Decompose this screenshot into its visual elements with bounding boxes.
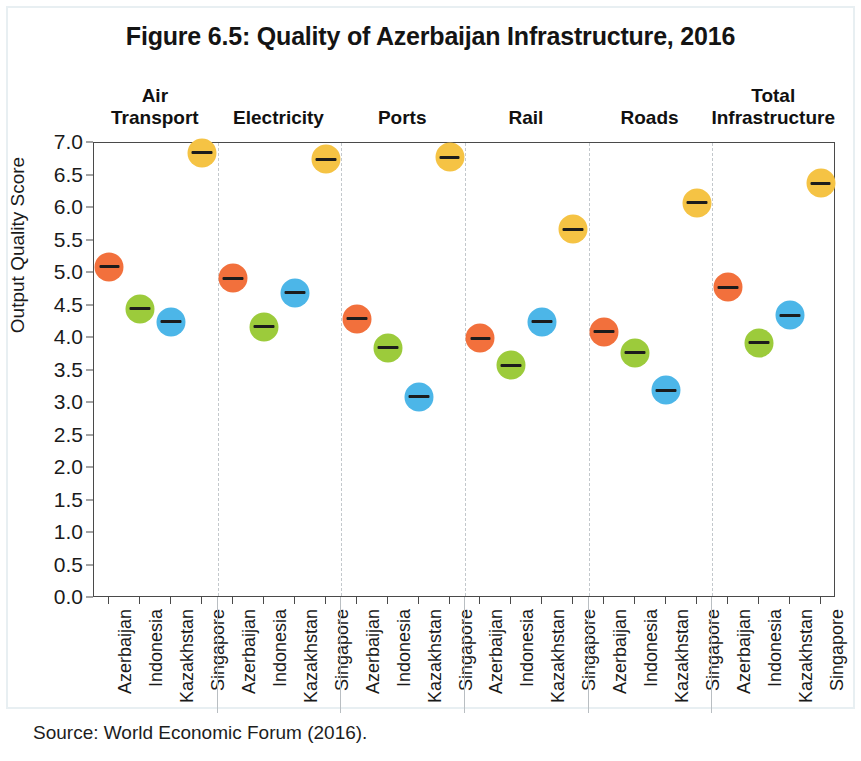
x-axis-tick-label: Indonesia	[641, 607, 662, 717]
y-axis-tick-mark	[86, 434, 93, 435]
x-axis-tick-mark	[387, 597, 388, 604]
data-point-value-line	[501, 364, 522, 367]
data-point-value-line	[130, 307, 151, 310]
y-axis-tick-label: 6.5	[54, 163, 83, 187]
x-axis-tick-label: Singapore	[827, 607, 848, 717]
data-point-marker	[95, 252, 124, 281]
x-axis-tick-label: Kazakhstan	[425, 607, 446, 717]
x-axis-tick-mark	[603, 597, 604, 604]
x-axis-tick-label: Azerbaijan	[239, 607, 260, 717]
x-axis-tick-mark	[139, 597, 140, 604]
y-axis-tick-mark	[86, 564, 93, 565]
data-point-marker	[744, 328, 773, 357]
data-point-value-line	[192, 151, 213, 154]
x-axis-tick-label: Azerbaijan	[363, 607, 384, 717]
data-point-marker	[435, 143, 464, 172]
y-axis-tick-label: 0.0	[54, 585, 83, 609]
y-axis-tick-label: 0.5	[54, 553, 83, 577]
group-header: Ports	[340, 74, 464, 130]
data-point-value-line	[99, 265, 120, 268]
data-point-value-line	[717, 286, 738, 289]
y-axis-tick-mark	[86, 272, 93, 273]
x-axis-tick-mark	[510, 597, 511, 604]
x-axis-tick-label: Singapore	[579, 607, 600, 717]
y-axis-tick-label: 1.0	[54, 520, 83, 544]
group-header: TotalInfrastructure	[711, 74, 835, 130]
y-axis-tick-mark	[86, 239, 93, 240]
x-axis-tick-label: Indonesia	[146, 607, 167, 717]
data-point-marker	[157, 307, 186, 336]
x-axis-tick-mark	[820, 597, 821, 604]
x-axis-tick-label: Singapore	[332, 607, 353, 717]
data-point-value-line	[625, 351, 646, 354]
data-point-marker	[651, 376, 680, 405]
x-axis-tick-label: Azerbaijan	[115, 607, 136, 717]
y-axis-tick-label: 7.0	[54, 130, 83, 154]
x-axis-tick-mark	[108, 597, 109, 604]
data-point-value-line	[532, 320, 553, 323]
data-point-value-line	[223, 277, 244, 280]
y-axis-tick-label: 4.0	[54, 325, 83, 349]
data-point-marker	[806, 169, 835, 198]
x-axis-tick-mark	[665, 597, 666, 604]
x-axis-tick-mark	[479, 597, 480, 604]
group-header: AirTransport	[93, 74, 217, 130]
group-header-row: AirTransportElectricityPortsRailRoadsTot…	[93, 74, 835, 130]
y-axis-tick-label: 2.5	[54, 423, 83, 447]
x-axis-tick-mark	[170, 597, 171, 604]
x-axis-tick-mark	[541, 597, 542, 604]
y-axis-tick-label: 2.0	[54, 455, 83, 479]
data-point-value-line	[285, 291, 306, 294]
y-axis-tick-mark	[86, 304, 93, 305]
data-point-value-line	[377, 346, 398, 349]
data-point-marker	[280, 278, 309, 307]
data-point-marker	[559, 215, 588, 244]
x-axis-tick-mark	[696, 597, 697, 604]
data-point-marker	[497, 351, 526, 380]
group-separator	[465, 143, 466, 596]
data-point-value-line	[315, 158, 336, 161]
x-axis-tick-label: Indonesia	[765, 607, 786, 717]
x-axis-tick-label: Singapore	[456, 607, 477, 717]
data-point-marker	[682, 188, 711, 217]
y-axis-tick-mark	[86, 499, 93, 500]
data-point-value-line	[439, 156, 460, 159]
data-point-value-line	[408, 395, 429, 398]
data-point-marker	[713, 273, 742, 302]
x-axis-tick-label: Singapore	[208, 607, 229, 717]
x-axis-tick-mark	[789, 597, 790, 604]
group-header: Rail	[464, 74, 588, 130]
data-point-marker	[775, 301, 804, 330]
data-point-value-line	[161, 320, 182, 323]
y-axis-tick-label: 1.5	[54, 488, 83, 512]
data-point-value-line	[346, 317, 367, 320]
x-axis-tick-mark	[294, 597, 295, 604]
source-note: Source: World Economic Forum (2016).	[33, 722, 367, 744]
x-axis-tick-mark	[325, 597, 326, 604]
x-axis-group-separator	[588, 597, 589, 713]
y-axis-tick-mark	[86, 532, 93, 533]
data-point-marker	[528, 307, 557, 336]
y-axis-tick-label: 4.5	[54, 293, 83, 317]
group-separator	[589, 143, 590, 596]
x-axis-tick-label: Kazakhstan	[301, 607, 322, 717]
y-axis-tick-mark	[86, 402, 93, 403]
data-point-marker	[219, 264, 248, 293]
plot-inner	[94, 143, 834, 596]
x-axis-tick-mark	[201, 597, 202, 604]
data-point-marker	[188, 138, 217, 167]
y-axis-tick-mark	[86, 369, 93, 370]
data-point-value-line	[810, 182, 831, 185]
group-header: Roads	[588, 74, 712, 130]
data-point-marker	[621, 338, 650, 367]
data-point-value-line	[470, 337, 491, 340]
x-axis-tick-label: Kazakhstan	[796, 607, 817, 717]
y-axis-tick-mark	[86, 142, 93, 143]
data-point-marker	[590, 317, 619, 346]
x-axis-tick-mark	[263, 597, 264, 604]
data-point-value-line	[686, 201, 707, 204]
data-point-marker	[311, 145, 340, 174]
y-axis-tick-mark	[86, 467, 93, 468]
y-axis-tick-label: 5.5	[54, 228, 83, 252]
y-axis-tick-label: 3.5	[54, 358, 83, 382]
